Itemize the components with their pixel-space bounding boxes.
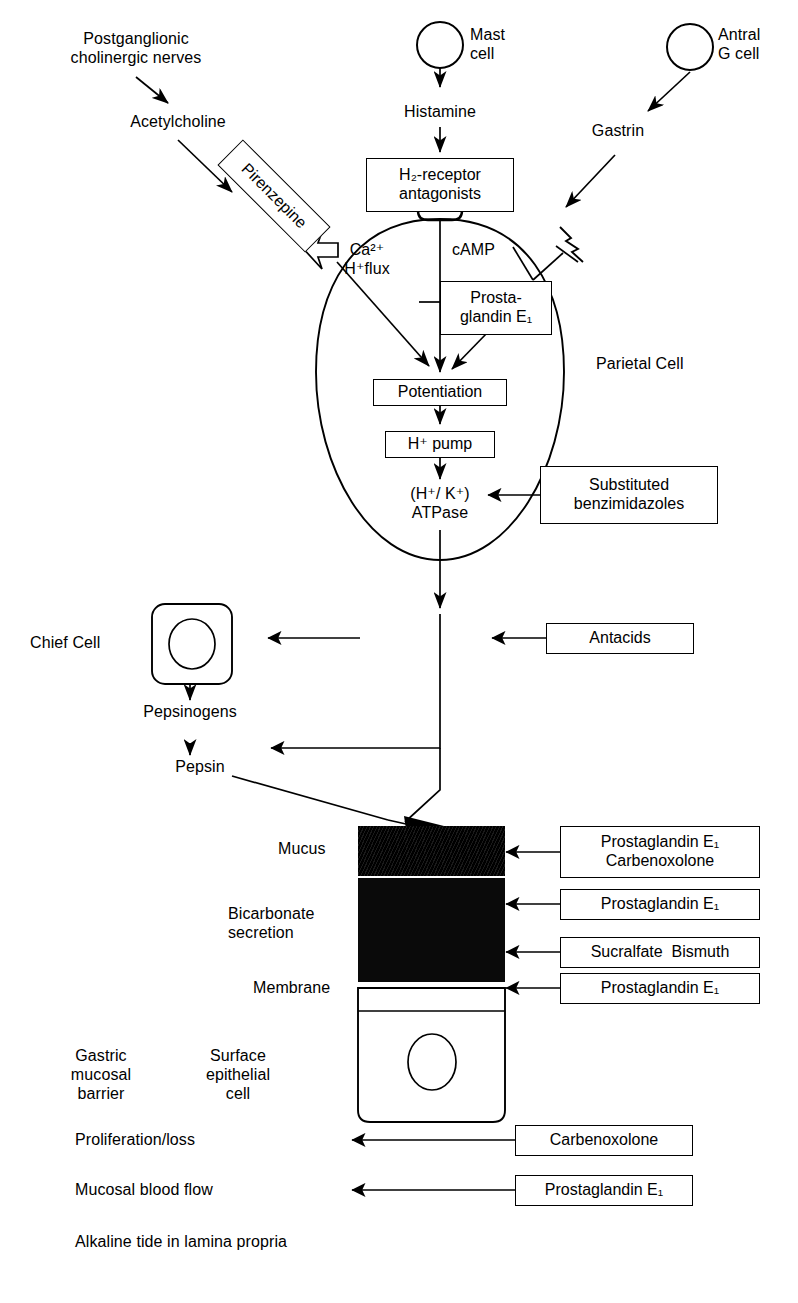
membrane-drug-box[interactable]: Prostaglandin E₁: [560, 973, 760, 1004]
atpase-label: (H⁺/ K⁺) ATPase: [410, 485, 469, 523]
gastric-mucosal-barrier-label: Gastric mucosal barrier: [71, 1047, 131, 1104]
membrane-drug-label: Prostaglandin E₁: [601, 979, 719, 998]
membrane-label: Membrane: [253, 979, 330, 998]
chief-cell-label: Chief Cell: [30, 634, 100, 653]
chief-cell-body: [152, 604, 232, 684]
prostaglandin-e1-parietal-box[interactable]: Prosta- glandin E₁: [440, 281, 552, 335]
blood-flow-drug-label: Prostaglandin E₁: [545, 1181, 663, 1200]
potentiation-label: Potentiation: [398, 383, 483, 402]
substituted-benzimidazoles-label: Substituted benzimidazoles: [574, 476, 684, 513]
carbenoxolone-label: Carbenoxolone: [550, 1131, 659, 1150]
antacids-label: Antacids: [589, 629, 650, 648]
surface-epithelial-cell-label: Surface epithelial cell: [206, 1047, 270, 1104]
blood-flow-drug-box[interactable]: Prostaglandin E₁: [515, 1175, 693, 1206]
ca-flux-label: Ca²⁺ H⁺flux: [344, 241, 390, 279]
mucus-label: Mucus: [278, 840, 326, 859]
antacids-box[interactable]: Antacids: [546, 623, 694, 654]
proliferation-loss-label: Proliferation/loss: [75, 1131, 195, 1150]
h2-antagonists-label: H₂-receptor antagonists: [399, 166, 481, 203]
carbenoxolone-box[interactable]: Carbenoxolone: [515, 1125, 693, 1156]
acetylcholine-label: Acetylcholine: [130, 113, 226, 132]
mucus-layer: [358, 826, 505, 876]
pepsin-label: Pepsin: [175, 758, 225, 777]
antral-g-cell-label: Antral G cell: [718, 26, 760, 64]
bicarbonate-drug-top-label: Prostaglandin E₁: [601, 895, 719, 914]
mast-cell-label: Mast cell: [470, 26, 505, 64]
antral-g-cell-circle: [667, 24, 713, 70]
surface-epithelial-cell: [358, 988, 505, 1122]
bicarbonate-layer: [358, 878, 505, 982]
epithelial-cell-nucleus: [408, 1034, 456, 1090]
bicarbonate-drug-top-box[interactable]: Prostaglandin E₁: [560, 889, 760, 920]
pirenzepine-box[interactable]: Pirenzepine: [217, 139, 330, 252]
histamine-label: Histamine: [404, 103, 476, 122]
parietal-cell-label: Parietal Cell: [596, 355, 684, 374]
pepsinogens-label: Pepsinogens: [143, 703, 237, 722]
receptor-right-lightning: [560, 227, 583, 262]
camp-label: cAMP: [452, 241, 495, 260]
gastrin-label: Gastrin: [592, 122, 644, 141]
prostaglandin-e1-parietal-label: Prosta- glandin E₁: [460, 289, 532, 326]
alkaline-tide-label: Alkaline tide in lamina propria: [75, 1233, 287, 1252]
bicarbonate-drug-bottom-box[interactable]: Sucralfate Bismuth: [560, 937, 760, 968]
potentiation-box[interactable]: Potentiation: [373, 379, 507, 406]
mucus-drugs-label: Prostaglandin E₁ Carbenoxolone: [601, 833, 719, 870]
diagram-canvas: Postganglionic cholinergic nerves Acetyl…: [0, 0, 798, 1303]
mucosal-blood-flow-label: Mucosal blood flow: [75, 1181, 213, 1200]
substituted-benzimidazoles-box[interactable]: Substituted benzimidazoles: [540, 466, 718, 524]
bicarbonate-label: Bicarbonate secretion: [228, 905, 315, 943]
mast-cell-circle: [417, 22, 463, 68]
pirenzepine-label: Pirenzepine: [238, 160, 310, 232]
bicarbonate-drug-bottom-label: Sucralfate Bismuth: [591, 943, 730, 962]
h2-receptor-antagonists-box[interactable]: H₂-receptor antagonists: [366, 158, 514, 212]
h-pump-label: H⁺ pump: [408, 435, 472, 454]
postganglionic-nerves-label: Postganglionic cholinergic nerves: [71, 30, 202, 68]
chief-cell-nucleus: [169, 619, 215, 669]
h-pump-box[interactable]: H⁺ pump: [385, 431, 495, 458]
mucus-drugs-box[interactable]: Prostaglandin E₁ Carbenoxolone: [560, 826, 760, 878]
